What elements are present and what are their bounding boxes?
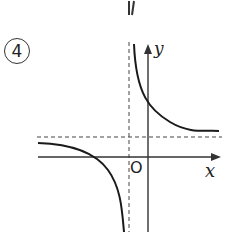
origin-label: O: [130, 158, 143, 177]
curve-upper-right-branch: [134, 44, 219, 131]
hyperbola-graph: [0, 0, 230, 235]
top-fragment: [129, 1, 134, 15]
figure-number-badge: 4: [4, 38, 30, 64]
y-axis-arrow: [144, 44, 152, 54]
y-axis-label: y: [154, 38, 164, 58]
x-axis-label: x: [205, 160, 215, 181]
